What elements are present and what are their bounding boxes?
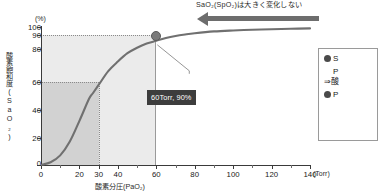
legend-item-label: S	[333, 54, 338, 64]
legend-arrow-text: ⇒酸	[324, 77, 377, 87]
legend-box: S P ⇒酸 P	[318, 48, 378, 141]
y-tick-label: 90	[7, 31, 41, 40]
top-annotation-text: SaO₂(SpO₂)は大きく変化しない	[196, 0, 302, 9]
bullet-icon	[324, 91, 331, 98]
x-tick-label: 140	[303, 170, 316, 179]
data-point-60-90	[151, 31, 161, 41]
x-tick-label: 40	[114, 170, 123, 179]
left-arrow-icon	[207, 16, 319, 21]
x-tick-label: 0	[39, 170, 43, 179]
x-tick-label: 60	[152, 170, 161, 179]
x-tick-label: 100	[227, 170, 240, 179]
callout-label: 60Torr, 90%	[147, 90, 196, 105]
legend-item-1: S	[324, 54, 377, 64]
bullet-icon	[324, 55, 331, 62]
legend-item-2: P	[324, 90, 377, 100]
x-tick-label: 120	[265, 170, 278, 179]
legend-item-label: P	[333, 90, 338, 100]
x-axis-title: 酸素分圧(PaO₂)	[95, 181, 145, 191]
x-tick-label: 30	[94, 170, 103, 179]
y-tick-label: 0	[7, 159, 41, 168]
legend-item-1-sub: P	[333, 67, 377, 77]
y-axis-title: 酸素飽和度(SaO₂)	[1, 52, 13, 141]
x-tick-label: 20	[75, 170, 84, 179]
x-tick-label: 80	[190, 170, 199, 179]
